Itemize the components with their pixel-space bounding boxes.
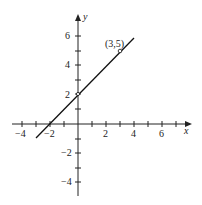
y-axis-arrow-icon [75,14,81,21]
x-tick-label: −2 [44,128,55,139]
x-tick-label: 2 [103,128,108,139]
x-tick-label: −4 [15,128,26,139]
y-tick-label: 4 [65,59,70,70]
y-tick-label: −2 [61,147,72,158]
point-label: (3,5) [105,38,124,50]
y-axis-label: y [82,11,88,22]
point-3-5 [118,49,122,53]
y-tick-label: 6 [65,30,70,41]
x-tick-label: 4 [131,128,136,139]
y-tick-label: 2 [65,89,70,100]
x-axis-label: x [183,125,189,136]
point-y-intercept [76,92,79,95]
x-tick-label: 6 [159,128,164,139]
graph: −4 −2 2 4 6 x 6 4 2 −2 −4 y (3,5) [0,0,202,205]
y-tick-label: −4 [61,176,72,187]
